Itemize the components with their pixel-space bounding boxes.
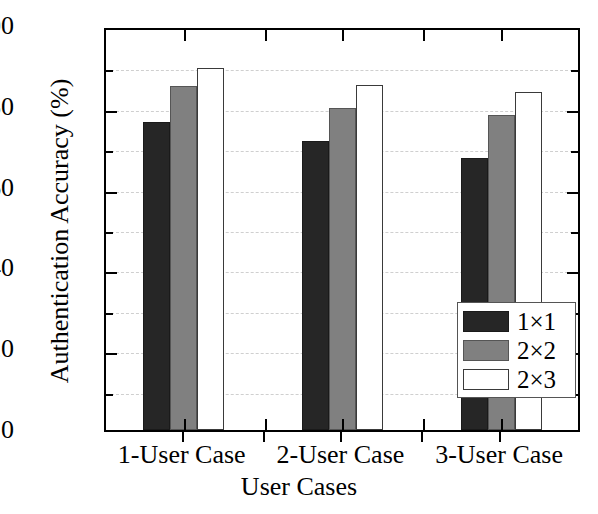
x-axis-outer-tick: [263, 432, 265, 442]
y-axis-tick: [106, 353, 117, 355]
legend: 1×12×22×3: [457, 302, 576, 398]
legend-label: 2×3: [517, 367, 556, 392]
y-axis-minor-tick: [106, 394, 113, 396]
y-axis-tick: [567, 111, 578, 113]
legend-item: 2×2: [463, 336, 570, 364]
legend-swatch: [463, 369, 509, 390]
bar: [197, 68, 224, 430]
legend-item: 2×3: [463, 365, 570, 393]
y-axis-tick-label: 0: [0, 417, 14, 443]
y-axis-tick: [567, 272, 578, 274]
x-axis-tick: [184, 30, 186, 41]
y-axis-tick: [567, 192, 578, 194]
x-axis-outer-tick: [340, 432, 342, 442]
legend-item: 1×1: [463, 307, 570, 335]
y-axis-minor-tick: [571, 151, 578, 153]
legend-swatch: [463, 340, 509, 361]
bar: [356, 85, 383, 430]
bar: [143, 122, 170, 430]
x-axis-outer-tick: [182, 432, 184, 442]
gridline: [106, 70, 578, 71]
y-axis-minor-tick: [106, 151, 113, 153]
legend-label: 1×1: [517, 309, 556, 334]
y-axis-minor-tick: [571, 70, 578, 72]
x-axis-outer-tick: [499, 432, 501, 442]
x-axis-tick: [265, 419, 267, 430]
x-axis-tick: [423, 30, 425, 41]
bar-chart: Authentication Accuracy (%) 020406080100…: [0, 0, 598, 514]
x-axis-tick: [265, 30, 267, 41]
y-axis-tick: [106, 272, 117, 274]
x-axis-title: User Cases: [0, 472, 598, 502]
y-axis-tick-label: 80: [0, 94, 14, 120]
y-axis-tick: [106, 192, 117, 194]
legend-swatch: [463, 311, 509, 332]
y-axis-minor-tick: [106, 70, 113, 72]
y-axis-minor-tick: [106, 232, 113, 234]
legend-label: 2×2: [517, 338, 556, 363]
x-axis-tick: [342, 30, 344, 41]
y-axis-tick-label: 60: [0, 175, 14, 201]
x-axis-tick: [501, 419, 503, 430]
y-axis-minor-tick: [571, 232, 578, 234]
bar: [329, 108, 356, 430]
y-axis-tick-label: 100: [0, 13, 14, 39]
bar: [302, 141, 329, 430]
x-axis-tick: [184, 419, 186, 430]
x-axis-tick-label: 3-User Case: [399, 440, 598, 470]
x-axis-tick: [423, 419, 425, 430]
y-axis-minor-tick: [106, 313, 113, 315]
y-axis-tick-label: 20: [0, 336, 14, 362]
x-axis-tick: [501, 30, 503, 41]
y-axis-tick-label: 40: [0, 255, 14, 281]
y-axis-tick: [106, 111, 117, 113]
x-axis-outer-tick: [421, 432, 423, 442]
bar: [170, 86, 197, 430]
y-axis-title: Authentication Accuracy (%): [45, 21, 75, 441]
x-axis-tick: [342, 419, 344, 430]
